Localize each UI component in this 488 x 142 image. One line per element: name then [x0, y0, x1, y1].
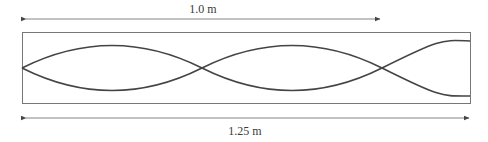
top-dimension-label: 1.0 m: [189, 2, 216, 17]
wave-upper-curve: [22, 41, 470, 91]
tube-box: [23, 33, 471, 104]
wave-lower-curve: [22, 46, 470, 97]
standing-wave-diagram: [0, 0, 488, 142]
bottom-dimension-label: 1.25 m: [228, 124, 261, 139]
